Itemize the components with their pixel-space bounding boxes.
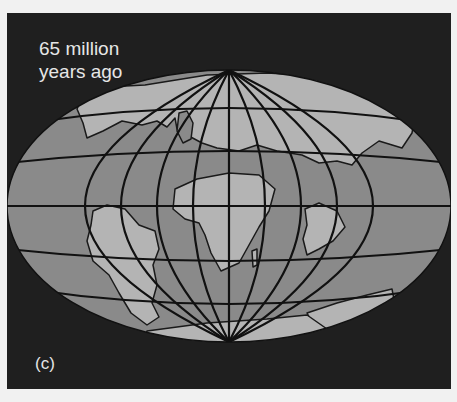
map-figure: 65 million years ago (c) [7,13,451,389]
figure-caption: 65 million years ago [39,37,122,83]
landmass-madagascar [252,249,257,267]
panel-label: (c) [35,354,55,374]
